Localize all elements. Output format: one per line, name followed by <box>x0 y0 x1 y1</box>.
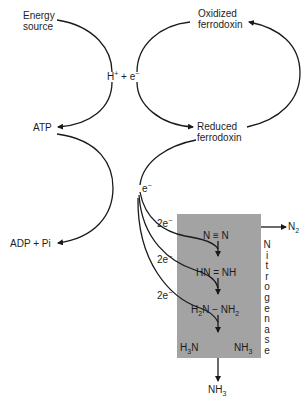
step-hn-double-nh: HN = NH <box>196 267 236 278</box>
electron-sup: − <box>148 182 152 189</box>
h-sup: + <box>114 70 118 77</box>
energy-to-atp-arc <box>57 20 112 127</box>
plus-text: + <box>121 71 127 82</box>
two-e-text: 2e <box>157 290 168 301</box>
letter: g <box>262 293 272 304</box>
nh3-nh: NH <box>234 342 248 353</box>
electron-label: e− <box>142 183 152 194</box>
reduced-to-electron <box>140 140 196 185</box>
n2-output-label: N2 <box>288 221 299 232</box>
e-sup: − <box>135 70 139 77</box>
atp-label: ATP <box>33 122 52 133</box>
energy-source-line-1: Energy <box>23 10 55 21</box>
diagram-arrows <box>0 0 305 399</box>
energy-source-label: Energy source <box>23 10 55 32</box>
nh3-output-label: NH3 <box>208 384 226 395</box>
two-e-sup: − <box>168 217 172 224</box>
nitrogenase-label: N i t r o g e n a s e <box>262 240 272 357</box>
reduced-line-1: Reduced <box>197 121 241 132</box>
nh3-nh: NH <box>208 384 222 395</box>
nh3-sub: 3 <box>248 348 252 355</box>
energy-source-line-2: source <box>23 21 55 32</box>
adp-pi-label: ADP + Pi <box>10 238 51 249</box>
nh2-sub: 2 <box>235 310 239 317</box>
to-reduced-arc <box>137 82 193 127</box>
reduced-ferrodoxin-label: Reduced ferrodoxin <box>197 121 241 143</box>
single-bond: − <box>209 304 220 315</box>
oxidized-ferrodoxin-label: Oxidized ferrodoxin <box>198 8 242 30</box>
h3n-n: N <box>191 342 198 353</box>
oxidized-line-1: Oxidized <box>198 8 242 19</box>
reduced-line-2: ferrodoxin <box>197 132 241 143</box>
atp-to-adp-arc <box>57 134 113 243</box>
step-h2n-nh2: H2N − NH2 <box>191 304 239 315</box>
two-electron-label-1: 2e− <box>157 218 172 229</box>
oxidized-to-reduced-arc <box>247 22 300 127</box>
step-h3n: H3N <box>180 342 198 353</box>
nh3-sub: 3 <box>222 390 226 397</box>
letter: N <box>262 240 272 251</box>
h-plus-e-label: H+ + e− <box>107 71 139 82</box>
two-e-sup: − <box>168 253 172 260</box>
h-to-oxidized-arc <box>137 22 190 72</box>
nh2-nh: NH <box>221 304 235 315</box>
step-nh3-in-box: NH3 <box>234 342 252 353</box>
letter: e <box>262 346 272 357</box>
oxidized-line-2: ferrodoxin <box>198 19 242 30</box>
two-e-text: 2e <box>157 254 168 265</box>
n2-sub: 2 <box>295 227 299 234</box>
step-n-triple-n: N ≡ N <box>203 230 229 241</box>
two-e-text: 2e <box>157 218 168 229</box>
two-e-sup: − <box>168 289 172 296</box>
two-electron-label-3: 2e− <box>157 290 172 301</box>
two-electron-label-2: 2e− <box>157 254 172 265</box>
